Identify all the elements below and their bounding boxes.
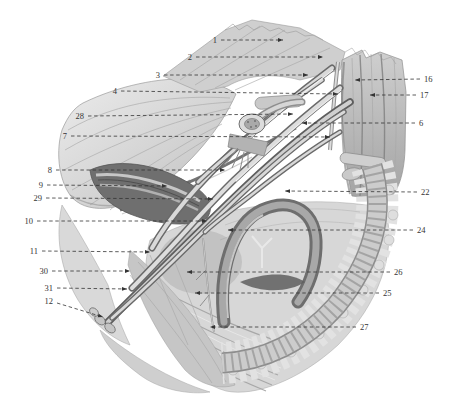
figure-label-7: 7 bbox=[63, 131, 67, 141]
figure-page: 123428789291011303112161762224262527 bbox=[0, 0, 457, 406]
figure-label-11: 11 bbox=[30, 246, 38, 256]
figure-label-6: 6 bbox=[419, 118, 423, 128]
figure-label-10: 10 bbox=[25, 216, 34, 226]
figure-label-31: 31 bbox=[45, 283, 54, 293]
figure-label-2: 2 bbox=[188, 52, 192, 62]
figure-label-30: 30 bbox=[40, 266, 49, 276]
figure-label-1: 1 bbox=[213, 35, 217, 45]
leader-line-11 bbox=[42, 251, 150, 252]
figure-label-16: 16 bbox=[424, 74, 433, 84]
figure-label-24: 24 bbox=[417, 225, 426, 235]
leader-arrow-22 bbox=[285, 189, 290, 193]
leader-arrow-28 bbox=[288, 112, 293, 116]
figure-label-22: 22 bbox=[421, 187, 430, 197]
figure-label-9: 9 bbox=[39, 180, 43, 190]
figure-label-12: 12 bbox=[45, 296, 54, 306]
figure-label-3: 3 bbox=[156, 70, 160, 80]
figure-label-27: 27 bbox=[360, 322, 369, 332]
figure-label-28: 28 bbox=[76, 111, 85, 121]
figure-label-17: 17 bbox=[420, 90, 429, 100]
figure-label-8: 8 bbox=[48, 165, 52, 175]
figure-label-29: 29 bbox=[34, 193, 43, 203]
figure-label-26: 26 bbox=[394, 267, 403, 277]
anatomical-figure: 123428789291011303112161762224262527 bbox=[0, 0, 457, 406]
figure-label-25: 25 bbox=[383, 288, 392, 298]
leader-arrow-31 bbox=[122, 287, 127, 291]
leader-arrow-30 bbox=[125, 269, 130, 273]
